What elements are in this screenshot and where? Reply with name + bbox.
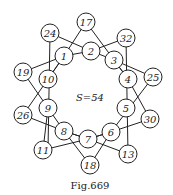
node-4: 4 <box>119 70 137 88</box>
connector-line <box>126 38 128 154</box>
node-3: 3 <box>105 51 123 69</box>
node-5: 5 <box>117 99 135 117</box>
svg-text:3: 3 <box>111 55 117 66</box>
sum-label: S=54 <box>76 92 104 103</box>
svg-text:9: 9 <box>45 103 52 114</box>
svg-text:25: 25 <box>146 72 160 83</box>
node-17: 17 <box>77 13 95 31</box>
svg-text:11: 11 <box>37 145 50 156</box>
connector-line <box>48 33 50 150</box>
node-10: 10 <box>39 70 57 88</box>
svg-text:6: 6 <box>108 127 115 138</box>
node-2: 2 <box>82 42 100 60</box>
svg-text:32: 32 <box>120 33 133 44</box>
node-9: 9 <box>39 99 57 117</box>
node-30: 30 <box>141 110 159 128</box>
node-19: 19 <box>14 63 32 81</box>
node-18: 18 <box>81 156 99 174</box>
svg-text:10: 10 <box>42 74 55 85</box>
node-32: 32 <box>117 29 135 47</box>
figure-caption: Fig.669 <box>71 180 110 191</box>
svg-text:8: 8 <box>61 126 67 137</box>
node-7: 7 <box>79 130 97 148</box>
svg-text:26: 26 <box>16 110 30 121</box>
svg-text:24: 24 <box>43 28 57 39</box>
svg-text:4: 4 <box>124 74 131 85</box>
node-6: 6 <box>102 123 120 141</box>
node-8: 8 <box>55 122 73 140</box>
svg-text:19: 19 <box>17 67 30 78</box>
svg-text:1: 1 <box>61 51 67 62</box>
svg-text:13: 13 <box>122 149 135 160</box>
svg-text:17: 17 <box>80 17 93 28</box>
node-26: 26 <box>14 106 32 124</box>
node-25: 25 <box>144 68 162 86</box>
svg-text:7: 7 <box>85 134 92 145</box>
node-13: 13 <box>119 145 137 163</box>
svg-text:30: 30 <box>144 114 157 125</box>
svg-text:5: 5 <box>123 103 129 114</box>
node-1: 1 <box>55 47 73 65</box>
svg-text:2: 2 <box>87 46 94 57</box>
node-24: 24 <box>41 24 59 42</box>
svg-text:18: 18 <box>84 160 97 171</box>
node-11: 11 <box>34 141 52 159</box>
